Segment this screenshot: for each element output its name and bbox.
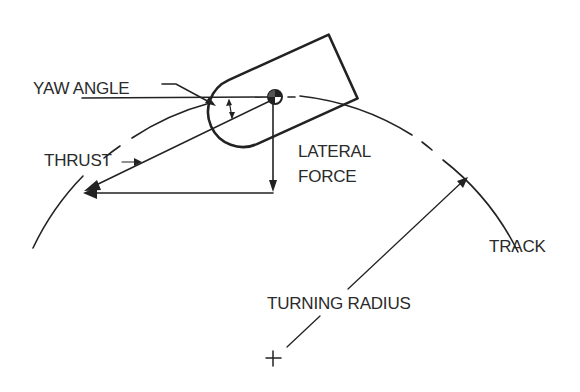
turn-center-plus-icon: [266, 351, 281, 366]
thrust-label: THRUST: [44, 151, 112, 170]
lateral-force-arrowhead: [269, 180, 277, 192]
diagram-canvas: YAW ANGLE THRUST LATERAL FORCE TRACK TUR…: [0, 0, 580, 392]
turning-radius-line-upper: [348, 182, 462, 289]
track-arc: [33, 96, 518, 252]
turning-radius-line-lower: [287, 316, 320, 347]
yaw-angle-leader: [162, 84, 213, 104]
turning-diagram: YAW ANGLE THRUST LATERAL FORCE TRACK TUR…: [0, 0, 580, 392]
center-of-gravity-icon: [268, 90, 282, 104]
turning-radius-arrowhead: [457, 177, 468, 188]
lateral-force-label-line1: LATERAL: [298, 142, 371, 161]
track-label: TRACK: [489, 237, 546, 256]
turning-radius-label: TURNING RADIUS: [267, 294, 411, 313]
lateral-force-label-line2: FORCE: [298, 167, 357, 186]
thrust-vector: [92, 100, 272, 187]
yaw-angle-label: YAW ANGLE: [33, 79, 129, 98]
